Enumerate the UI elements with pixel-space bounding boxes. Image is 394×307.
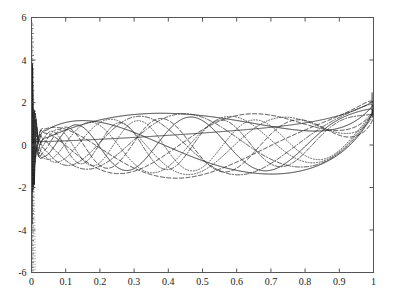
y-tick-label: 6 [22,12,27,23]
chart-canvas: 00.10.20.30.40.50.60.70.80.91 6420-2-4-6 [0,0,394,307]
x-tick-label: 1 [371,276,376,287]
y-tick-label: -2 [18,182,26,193]
x-tick-label: 0.7 [265,276,278,287]
x-tick-label: 0.4 [162,276,175,287]
x-tick-label: 0.3 [128,276,141,287]
y-tick-label: 4 [22,55,27,66]
x-tick-label: 0 [29,276,34,287]
y-tick-label: 0 [22,140,27,151]
y-tick-label: -4 [18,225,26,236]
x-tick-label: 0.1 [59,276,72,287]
x-tick-label: 0.2 [94,276,107,287]
y-tick-label: -6 [18,267,26,278]
x-tick-label: 0.6 [230,276,243,287]
x-tick-label: 0.5 [196,276,209,287]
x-tick-label: 0.9 [333,276,346,287]
figure-container: 00.10.20.30.40.50.60.70.80.91 6420-2-4-6 [0,0,394,307]
x-tick-label: 0.8 [299,276,312,287]
y-tick-label: 2 [22,97,27,108]
